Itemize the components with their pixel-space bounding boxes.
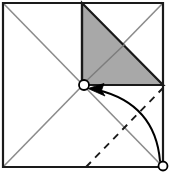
center-vertex-marker <box>79 80 89 90</box>
corner-vertex-marker <box>159 162 168 171</box>
fold-diagram-canvas <box>0 0 170 175</box>
fold-diagram-figure: Square fold diagram A square sheet with … <box>0 0 170 175</box>
